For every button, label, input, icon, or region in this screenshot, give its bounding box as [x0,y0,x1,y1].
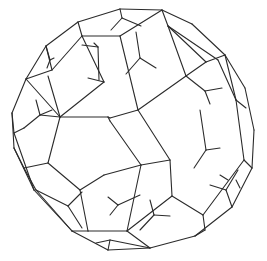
bond-line [195,230,205,236]
bond-line [236,100,244,160]
bond-line [60,82,104,117]
bond-line [46,22,78,46]
bond-line [104,165,141,175]
bond-line [150,236,195,248]
bond-line [120,9,122,18]
bond-line [194,150,206,168]
bond-line [236,100,246,108]
bond-line [48,117,60,163]
bond-line [205,91,210,104]
bond-line [110,110,138,118]
bond-line [236,180,240,188]
bond-line [40,110,52,115]
bond-line [72,231,108,250]
bond-line [244,160,252,168]
bond-line [203,160,244,215]
bond-line [225,55,236,100]
bond-line [170,160,172,196]
bond-line [206,148,220,150]
bond-line [24,168,36,190]
bond-line [226,190,232,207]
bond-line [68,192,82,206]
bond-line [200,110,206,150]
bond-line [111,18,122,30]
bond-line [122,18,141,26]
bond-line [110,121,141,165]
bond-line [88,78,104,82]
bond-line [80,190,88,231]
bond-line [96,240,110,243]
bond-line [82,36,104,82]
bond-line [108,248,150,250]
bond-line [245,88,254,130]
bond-line [126,58,140,74]
bond-line [110,205,118,215]
bond-line [232,168,252,207]
bond-line [108,197,118,205]
bond-line [120,9,162,10]
bond-line [24,163,48,168]
bond-line [136,32,140,58]
bond-line [220,175,228,180]
bond-line [141,160,170,165]
bond-line [26,46,46,79]
bond-line [78,9,120,22]
bond-line [40,115,60,117]
bond-line [46,46,50,60]
bond-line [203,215,205,230]
bond-line [108,240,110,250]
bond-line [52,36,82,70]
bond-line [12,79,26,113]
bond-line [118,195,140,205]
bond-line [120,10,162,36]
bond-line [120,36,138,110]
bond-line [14,128,24,133]
bond-line [154,215,170,216]
bond-line [168,26,186,76]
bond-line [50,58,54,60]
bond-line [98,47,99,80]
bond-line [186,76,205,91]
bond-line [195,207,232,236]
fullerene-drawing [0,0,267,261]
bond-line [172,196,203,215]
bond-line [218,60,236,100]
bond-line [140,58,156,68]
bond-line [78,22,82,36]
bond-line [47,60,50,68]
bond-line [186,62,206,76]
bond-line [205,88,222,91]
bond-line [168,26,218,60]
bond-line [140,215,154,230]
bond-line [192,24,225,55]
bond-line [36,190,72,231]
bond-line [252,130,254,168]
bond-line [80,175,104,190]
bond-line [138,110,170,160]
bond-line [24,115,40,128]
bond-line [68,206,82,228]
bond-line [138,76,186,110]
bond-line [36,100,40,115]
bond-line [48,163,80,190]
